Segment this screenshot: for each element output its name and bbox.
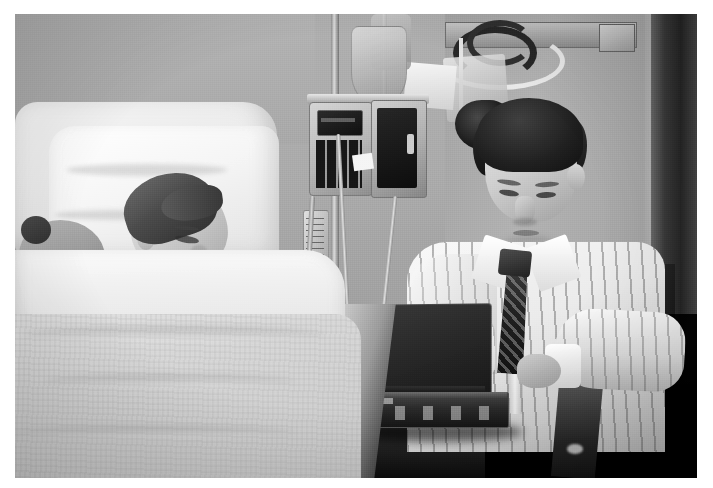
laptop-port-row	[367, 406, 497, 420]
blanket-fold-low	[15, 426, 295, 438]
man-hair	[477, 98, 583, 172]
blanket-fold-top	[25, 326, 325, 342]
pump-display-readout	[321, 118, 355, 122]
blanket-fold-mid	[45, 374, 295, 388]
iv-bag	[351, 26, 407, 104]
wall-socket	[599, 24, 635, 52]
pump-door-handle	[407, 134, 414, 154]
man-trouser-leg	[551, 380, 603, 478]
teddy-bear-ear	[21, 216, 51, 244]
pillow-fold	[67, 164, 227, 176]
photograph	[15, 14, 697, 478]
man-hand	[517, 354, 561, 388]
man-nose-shadow	[513, 218, 537, 226]
pump-label-tag	[352, 153, 374, 172]
necktie-knot	[498, 248, 533, 277]
shoe-highlight	[567, 444, 583, 454]
pump-display-screen	[317, 110, 363, 136]
photograph-frame: A man in a pinstriped dress shirt and ti…	[0, 0, 713, 488]
man-ear	[567, 164, 585, 190]
